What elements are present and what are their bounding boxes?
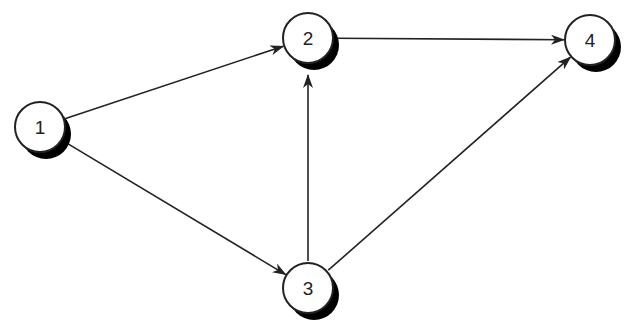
node-2: 2 bbox=[283, 13, 339, 70]
node-label: 1 bbox=[35, 117, 46, 138]
node-1: 1 bbox=[15, 102, 71, 159]
edges-layer bbox=[63, 38, 570, 274]
node-label: 3 bbox=[303, 278, 314, 299]
graph-canvas: 1234 bbox=[0, 0, 629, 331]
node-4: 4 bbox=[565, 15, 621, 72]
edge-1-to-2 bbox=[66, 46, 284, 118]
node-3: 3 bbox=[283, 263, 339, 320]
edge-2-to-4 bbox=[335, 38, 564, 40]
node-label: 2 bbox=[303, 28, 314, 49]
edge-3-to-4 bbox=[328, 57, 570, 270]
edge-1-to-3 bbox=[63, 141, 286, 275]
node-label: 4 bbox=[585, 30, 596, 51]
